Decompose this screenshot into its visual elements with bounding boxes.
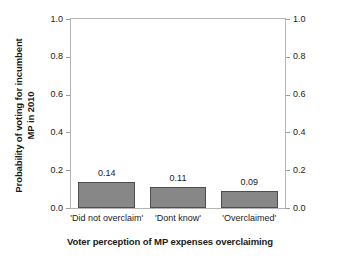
y-axis-tick-label-left: 0.4	[50, 128, 63, 137]
y-axis-tick-label-left: 0.8	[50, 52, 63, 61]
y-axis-tick-right	[286, 57, 290, 58]
y-axis-tick-right	[286, 95, 290, 96]
y-axis-tick-label-right: 0.6	[293, 90, 306, 99]
bar-chart-figure: Probability of voting for incumbent MP i…	[0, 0, 340, 263]
y-axis-tick-label-left: 0.6	[50, 90, 63, 99]
y-axis-tick-label-right: 0.8	[293, 52, 306, 61]
bar[interactable]	[221, 191, 277, 208]
y-axis-tick-label-right: 0.2	[293, 166, 306, 175]
y-axis-tick-label-right: 1.0	[293, 15, 306, 24]
x-axis-category-label: 'Overclaimed'	[205, 213, 293, 223]
y-axis-tick-right	[286, 132, 290, 133]
bar[interactable]	[150, 187, 206, 208]
plot-area: 0.00.20.40.60.81.00.00.20.40.60.81.00.14…	[70, 18, 286, 209]
y-axis-tick-left	[66, 57, 70, 58]
y-axis-tick-label-left: 0.2	[50, 166, 63, 175]
bar-value-label: 0.14	[78, 169, 134, 178]
y-axis-tick-right	[286, 208, 290, 209]
bar-value-label: 0.09	[221, 178, 277, 187]
y-axis-tick-label-left: 0.0	[50, 204, 63, 213]
y-axis-tick-right	[286, 170, 290, 171]
y-axis-tick-left	[66, 208, 70, 209]
x-axis-title: Voter perception of MP expenses overclai…	[0, 236, 340, 247]
y-axis-title: Probability of voting for incumbent MP i…	[13, 16, 36, 216]
y-axis-tick-left	[66, 132, 70, 133]
y-axis-tick-left	[66, 170, 70, 171]
y-axis-tick-left	[66, 19, 70, 20]
y-axis-tick-right	[286, 19, 290, 20]
y-axis-tick-label-right: 0.0	[293, 204, 306, 213]
y-axis-title-line-2: MP in 2010	[24, 16, 36, 216]
bar-value-label: 0.11	[150, 174, 206, 183]
y-axis-tick-label-right: 0.4	[293, 128, 306, 137]
y-axis-tick-label-left: 1.0	[50, 15, 63, 24]
y-axis-title-line-1: Probability of voting for incumbent	[13, 16, 25, 216]
y-axis-tick-left	[66, 95, 70, 96]
bar[interactable]	[78, 182, 134, 208]
